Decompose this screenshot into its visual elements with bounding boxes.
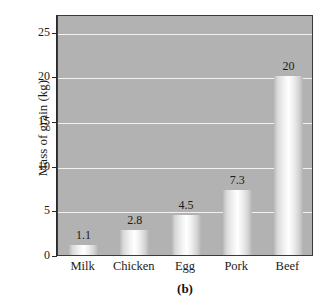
bar-series: 1.12.84.57.320	[58, 16, 312, 255]
y-tick-label: 20	[38, 69, 50, 84]
bar-value-label: 20	[263, 59, 313, 74]
y-tick-label: 25	[38, 25, 50, 40]
y-tick-label: 10	[38, 159, 50, 174]
y-tick-label: 5	[44, 203, 50, 218]
y-tick-label: 15	[38, 114, 50, 129]
bar-value-label: 7.3	[212, 173, 262, 188]
plot-area: 1.12.84.57.320	[57, 15, 313, 256]
y-axis: 0510152025	[36, 15, 57, 256]
bar-value-label: 2.8	[110, 213, 160, 228]
bar	[223, 190, 252, 255]
x-tick-label: Beef	[252, 259, 322, 274]
x-axis-tick-labels: MilkChickenEggPorkBeef	[57, 259, 313, 277]
bar-value-label: 1.1	[59, 228, 109, 243]
bar	[274, 76, 303, 255]
bar	[172, 215, 201, 255]
bar	[120, 230, 149, 255]
bar	[69, 245, 98, 255]
figure-panel-b: Mass of grain (kg) 0510152025 1.12.84.57…	[0, 0, 329, 306]
bar-value-label: 4.5	[161, 198, 211, 213]
figure-caption: (b)	[57, 281, 313, 297]
